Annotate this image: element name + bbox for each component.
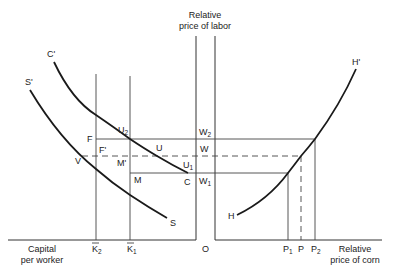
m-label: M bbox=[134, 175, 142, 185]
u2-label: U2 bbox=[118, 125, 129, 136]
p1-tick-label: P1 bbox=[283, 244, 293, 255]
s-label: S bbox=[170, 218, 176, 228]
s-prime-label: S' bbox=[25, 77, 33, 87]
w2-label: W2 bbox=[199, 127, 212, 138]
h-h-prime-curve bbox=[237, 69, 356, 215]
f-label: F bbox=[87, 134, 93, 144]
h-prime-label: H' bbox=[352, 57, 360, 67]
k1-tick-label: K1 bbox=[127, 244, 137, 255]
k2-tick-label: K2 bbox=[92, 244, 102, 255]
c-label: C bbox=[184, 177, 191, 187]
left-x-axis-label-line2: per worker bbox=[21, 255, 64, 265]
m-prime-label: M' bbox=[117, 158, 126, 168]
w1-label: W1 bbox=[199, 176, 212, 187]
origin-label: O bbox=[202, 244, 209, 254]
right-x-axis-label-line1: Relative bbox=[339, 244, 372, 254]
v-label: V bbox=[75, 156, 81, 166]
left-x-axis-label-line1: Capital bbox=[28, 244, 56, 254]
u1-label: U1 bbox=[183, 160, 194, 171]
c-prime-label: C' bbox=[47, 49, 55, 59]
trade-growth-diagram: Relative price of labor C' S' H' H S C F… bbox=[0, 0, 394, 276]
h-label: H bbox=[228, 211, 235, 221]
y-axis-label-line2: price of labor bbox=[179, 21, 231, 31]
p-tick-label: P bbox=[298, 244, 304, 254]
p2-tick-label: P2 bbox=[311, 244, 321, 255]
w-label: W bbox=[200, 144, 209, 154]
f-prime-label: F' bbox=[99, 145, 106, 155]
y-axis-label-line1: Relative bbox=[189, 10, 222, 20]
right-x-axis-label-line2: price of corn bbox=[330, 255, 380, 265]
u-label: U bbox=[156, 143, 163, 153]
